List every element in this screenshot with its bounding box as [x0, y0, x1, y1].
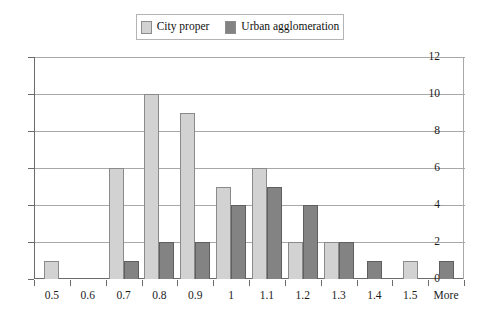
bar — [288, 242, 303, 279]
bars-layer — [34, 57, 464, 279]
bar — [339, 242, 354, 279]
bar — [367, 261, 382, 280]
legend-label-city-proper: City proper — [157, 21, 210, 33]
bar-group — [428, 57, 464, 279]
bar-group — [106, 57, 142, 279]
bar-group — [392, 57, 428, 279]
x-tick-mark — [357, 280, 358, 286]
chart-legend: City proper Urban agglomeration — [136, 14, 344, 40]
legend-entry-urban-agglomeration: Urban agglomeration — [225, 21, 339, 34]
bar-group — [34, 57, 70, 279]
x-tick-mark — [392, 280, 393, 286]
x-tick-label-More: More — [421, 290, 471, 302]
x-tick-mark — [464, 280, 465, 286]
x-tick-mark — [177, 280, 178, 286]
bar-group — [213, 57, 249, 279]
bar — [252, 168, 267, 279]
legend-entry-city-proper: City proper — [141, 21, 210, 34]
legend-label-urban-agglomeration: Urban agglomeration — [241, 21, 339, 33]
x-tick-mark — [106, 280, 107, 286]
bar-group — [142, 57, 178, 279]
x-tick-mark — [321, 280, 322, 286]
legend-swatch-city-proper — [141, 21, 152, 34]
bar — [124, 261, 139, 280]
bar-group — [249, 57, 285, 279]
bar — [403, 261, 418, 280]
bar — [439, 261, 454, 280]
bar — [109, 168, 124, 279]
x-tick-mark — [142, 280, 143, 286]
bar — [44, 261, 59, 280]
bar — [303, 205, 318, 279]
bar-group — [70, 57, 106, 279]
bar-group — [357, 57, 393, 279]
bar — [216, 187, 231, 280]
bar-group — [321, 57, 357, 279]
bar-group — [285, 57, 321, 279]
bar — [159, 242, 174, 279]
x-tick-mark — [249, 280, 250, 286]
legend-swatch-urban-agglomeration — [225, 21, 236, 34]
x-tick-mark — [285, 280, 286, 286]
x-tick-mark — [70, 280, 71, 286]
bar — [195, 242, 210, 279]
bar — [267, 187, 282, 280]
bar-chart: City proper Urban agglomeration 02468101… — [0, 0, 480, 317]
x-tick-mark — [34, 280, 35, 286]
bar — [324, 242, 339, 279]
x-tick-mark — [213, 280, 214, 286]
x-tick-mark — [428, 280, 429, 286]
bar — [231, 205, 246, 279]
bar-group — [177, 57, 213, 279]
bar — [180, 113, 195, 280]
bar — [144, 94, 159, 279]
